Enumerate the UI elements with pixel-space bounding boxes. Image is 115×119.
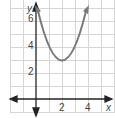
y-tick-6: 6 xyxy=(28,14,34,24)
y-tick-2: 2 xyxy=(28,67,34,77)
x-axis-label: x xyxy=(106,103,111,113)
y-tick-4: 4 xyxy=(28,41,34,51)
x-axis-left-arrow-icon xyxy=(10,96,17,102)
curve-right-arrow-icon xyxy=(83,5,89,14)
grid xyxy=(10,0,115,113)
y-axis-down-arrow-icon xyxy=(33,108,39,116)
parabola-graph xyxy=(0,0,115,119)
curve-left-arrow-icon xyxy=(35,5,41,14)
x-tick-2: 2 xyxy=(59,103,65,113)
x-tick-4: 4 xyxy=(85,103,91,113)
